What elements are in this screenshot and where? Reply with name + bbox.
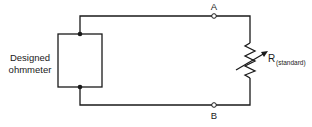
resistor-label-main: R bbox=[268, 53, 275, 64]
terminal-a bbox=[212, 14, 217, 19]
variable-arrow-line bbox=[236, 53, 265, 70]
top-wire bbox=[80, 16, 250, 43]
resistor-zigzag bbox=[245, 43, 255, 78]
resistor-label-sub: (standard) bbox=[276, 59, 306, 67]
bottom-wire bbox=[80, 78, 250, 105]
terminal-b bbox=[212, 103, 217, 108]
ohmmeter-label-line2: ohmmeter bbox=[9, 64, 52, 75]
terminal-a-label: A bbox=[211, 1, 218, 12]
terminal-b-label: B bbox=[211, 110, 217, 121]
ohmmeter-label-line1: Designed bbox=[10, 52, 50, 63]
top-junction-dot bbox=[78, 32, 83, 37]
circuit-diagram: Designed ohmmeter A B R (standard) bbox=[0, 0, 312, 127]
ohmmeter-box bbox=[58, 34, 102, 87]
bottom-junction-dot bbox=[78, 85, 83, 90]
